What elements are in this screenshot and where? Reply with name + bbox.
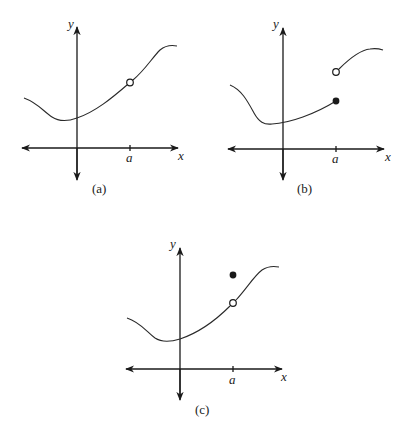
open-circle-marker: [333, 69, 340, 76]
panel-c: y x a (c): [126, 236, 287, 417]
curve-left: [24, 85, 127, 121]
y-axis-label: y: [66, 16, 74, 31]
x-axis-label: x: [384, 149, 391, 164]
tick-label-a: a: [332, 151, 339, 166]
panel-caption: (b): [297, 181, 312, 196]
open-circle-marker: [230, 300, 237, 307]
curve-right-branch: [339, 49, 383, 69]
curve-right: [236, 266, 279, 300]
open-circle-marker: [127, 79, 134, 86]
panel-caption: (a): [92, 181, 106, 196]
filled-dot-marker: [230, 272, 237, 279]
filled-dot-marker: [333, 98, 340, 105]
tick-label-a: a: [229, 372, 236, 387]
panel-b: y x a (b): [228, 16, 391, 196]
tick-label-a: a: [126, 150, 133, 165]
curve-right: [133, 45, 177, 80]
panel-a: y x a (a): [22, 16, 184, 196]
figure-canvas: y x a (a) y x a (b) y x a (c): [0, 0, 408, 429]
panel-caption: (c): [195, 402, 209, 417]
curve-left: [127, 306, 230, 341]
x-axis-label: x: [280, 369, 287, 384]
y-axis-label: y: [271, 16, 279, 31]
y-axis-label: y: [168, 236, 176, 251]
x-axis-label: x: [177, 148, 184, 163]
